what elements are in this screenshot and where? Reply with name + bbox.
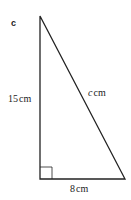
right-triangle xyxy=(40,16,125,179)
right-angle-marker xyxy=(40,167,52,179)
hypotenuse-label: ccm xyxy=(88,87,106,98)
part-label: c xyxy=(11,18,16,28)
vertical-side-label: 15cm xyxy=(8,93,31,104)
base-label: 8cm xyxy=(70,183,88,194)
triangle-diagram: c 15cm ccm 8cm xyxy=(0,0,131,200)
